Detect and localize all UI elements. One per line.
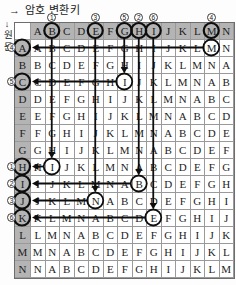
cell-J-A: J <box>31 193 46 210</box>
cell-K-E: A <box>89 210 104 227</box>
cell-B-A: B <box>31 57 46 74</box>
cell-C-B: D <box>46 74 61 91</box>
cell-I-N: H <box>220 176 235 193</box>
cell-L-B: M <box>46 227 61 244</box>
col-header-I: I <box>147 23 162 40</box>
cell-N-B: A <box>46 261 61 278</box>
cell-A-C: C <box>60 40 75 57</box>
cell-E-D: H <box>75 108 90 125</box>
cell-A-G: G <box>118 40 133 57</box>
cell-F-F: K <box>104 125 119 142</box>
cell-J-B: K <box>46 193 61 210</box>
cell-G-H: N <box>133 142 148 159</box>
cell-G-M: E <box>205 142 220 159</box>
cell-B-L: M <box>191 57 206 74</box>
cell-N-G: F <box>118 261 133 278</box>
cell-L-M: J <box>205 227 220 244</box>
cell-D-A: D <box>31 91 46 108</box>
cell-A-J: J <box>162 40 177 57</box>
cell-G-C: I <box>60 142 75 159</box>
row-header-L: L <box>15 227 31 244</box>
cell-N-K: J <box>176 261 191 278</box>
cell-K-C: M <box>60 210 75 227</box>
cell-N-F: E <box>104 261 119 278</box>
cell-N-N: M <box>220 261 235 278</box>
cell-B-H: I <box>133 57 148 74</box>
cell-G-G: M <box>118 142 133 159</box>
cell-H-C: J <box>60 159 75 176</box>
cell-F-I: N <box>147 125 162 142</box>
cell-B-E: F <box>89 57 104 74</box>
cell-H-L: E <box>191 159 206 176</box>
cell-J-K: F <box>176 193 191 210</box>
cell-K-L: H <box>191 210 206 227</box>
cell-J-G: B <box>118 193 133 210</box>
cell-I-D: L <box>75 176 90 193</box>
cell-D-K: N <box>176 91 191 108</box>
plaintext-label-text: 원문 <box>0 30 14 54</box>
cell-L-J: G <box>162 227 177 244</box>
cell-L-G: D <box>118 227 133 244</box>
cell-D-M: B <box>205 91 220 108</box>
cell-E-M: C <box>205 108 220 125</box>
cell-K-D: N <box>75 210 90 227</box>
row-header-A: A <box>15 40 31 57</box>
cell-C-K: M <box>176 74 191 91</box>
cell-A-N: N <box>220 40 235 57</box>
cell-I-K: E <box>176 176 191 193</box>
cell-N-L: K <box>191 261 206 278</box>
cell-E-E: I <box>89 108 104 125</box>
cell-C-A: C <box>31 74 46 91</box>
cell-E-L: B <box>191 108 206 125</box>
plaintext-direction-label: ↓ 원문 <box>1 19 13 54</box>
cell-G-D: J <box>75 142 90 159</box>
cell-I-J: D <box>162 176 177 193</box>
cell-D-B: E <box>46 91 61 108</box>
cell-E-H: L <box>133 108 148 125</box>
cell-B-M: N <box>205 57 220 74</box>
col-header-D: D <box>75 23 90 40</box>
key-order-badge-2: 2 <box>134 13 143 22</box>
cell-M-H: F <box>133 244 148 261</box>
row-header-B: B <box>15 57 31 74</box>
cell-A-L: L <box>191 40 206 57</box>
col-header-G: G <box>118 23 133 40</box>
cell-D-L: A <box>191 91 206 108</box>
cell-L-D: A <box>75 227 90 244</box>
cell-N-E: D <box>89 261 104 278</box>
down-arrow-icon: ↓ <box>5 19 10 29</box>
col-header-F: F <box>104 23 119 40</box>
cell-I-F: N <box>104 176 119 193</box>
cell-F-M: D <box>205 125 220 142</box>
cell-A-H: H <box>133 40 148 57</box>
cell-D-C: F <box>60 91 75 108</box>
cell-C-H: J <box>133 74 148 91</box>
cell-F-E: J <box>89 125 104 142</box>
cell-J-N: I <box>220 193 235 210</box>
cell-L-C: N <box>60 227 75 244</box>
cell-N-D: C <box>75 261 90 278</box>
cell-D-G: J <box>118 91 133 108</box>
row-header-C: C <box>15 74 31 91</box>
corner-cell <box>15 23 31 40</box>
cell-H-N: G <box>220 159 235 176</box>
cell-C-J: L <box>162 74 177 91</box>
cell-I-A: I <box>31 176 46 193</box>
cell-D-E: H <box>89 91 104 108</box>
cell-H-D: K <box>75 159 90 176</box>
cell-B-N: A <box>220 57 235 74</box>
cell-E-C: G <box>60 108 75 125</box>
cell-D-J: M <box>162 91 177 108</box>
cell-G-B: H <box>46 142 61 159</box>
cell-C-M: A <box>205 74 220 91</box>
title-text: 암호 변환키 <box>25 4 81 16</box>
cell-G-I: A <box>147 142 162 159</box>
key-order-badge-5: 5 <box>120 13 129 22</box>
cell-G-N: F <box>220 142 235 159</box>
cell-A-D: D <box>75 40 90 57</box>
cell-F-B: G <box>46 125 61 142</box>
cell-M-G: E <box>118 244 133 261</box>
row-header-J: J <box>15 193 31 210</box>
cell-C-C: E <box>60 74 75 91</box>
cell-E-N: D <box>220 108 235 125</box>
